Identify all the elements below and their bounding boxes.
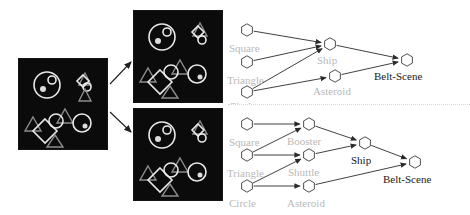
graph-node-b-booster[interactable] — [304, 118, 315, 130]
bottom-parse-graph: SquareTriangleCircleBoosterShuttleAstero… — [225, 107, 470, 215]
graph-divider — [228, 104, 470, 105]
graph-node-b-circle[interactable] — [242, 180, 253, 192]
graph-node-t-ship[interactable] — [325, 38, 336, 50]
bottom-parse-canvas — [134, 109, 222, 200]
graph-node-label-b-square: Square — [229, 136, 260, 148]
scene-circle-mid — [49, 114, 63, 128]
graph-edge-b-shuttle-to-b-ship — [316, 145, 356, 154]
scene-circle-right — [188, 163, 206, 181]
scene-dot-right — [198, 75, 203, 80]
input-scene-canvas — [19, 59, 107, 149]
scene-big-circle — [34, 72, 60, 98]
graph-node-label-b-circle: Circle — [229, 197, 256, 209]
graph-node-t-asteroid[interactable] — [330, 70, 341, 82]
graph-edge-b-ship-to-b-belt — [371, 145, 406, 158]
scene-dot-right — [198, 173, 203, 178]
top-parse-panel — [133, 10, 223, 103]
graph-node-t-belt[interactable] — [402, 54, 413, 66]
top-graph-nodes: SquareTriangleCircleShipAsteroidBelt-Sce… — [227, 24, 422, 104]
scene-triangle-bottom — [162, 184, 178, 196]
graph-node-label-t-square: Square — [229, 42, 260, 54]
graph-node-label-b-booster: Booster — [287, 135, 322, 147]
scene-inner-circle — [163, 28, 171, 36]
graph-node-t-square[interactable] — [242, 24, 253, 36]
graph-node-b-triangle[interactable] — [242, 149, 253, 161]
scene-inner-circle — [48, 76, 56, 84]
scene-inner-dot — [155, 136, 161, 142]
scene-triangle-mid — [172, 158, 188, 172]
graph-node-label-b-asteroid: Asteroid — [287, 197, 325, 209]
scene-triangle-left — [140, 68, 156, 82]
scene-circle-mid — [164, 163, 178, 177]
graph-edge-t-square-to-t-ship — [254, 31, 321, 42]
graph-edge-t-ship-to-t-belt — [337, 45, 398, 58]
scene-inner-circle — [163, 126, 171, 134]
graph-node-b-asteroid[interactable] — [304, 180, 315, 192]
top-parse-canvas — [134, 11, 222, 102]
graph-node-label-b-belt: Belt-Scene — [383, 173, 431, 185]
graph-node-label-b-ship: Ship — [351, 154, 372, 166]
graph-node-label-t-asteroid: Asteroid — [313, 85, 351, 97]
graph-node-b-belt[interactable] — [410, 156, 421, 168]
scene-inner-dot — [40, 86, 46, 92]
scene-circle-topright — [198, 36, 206, 44]
input-scene-panel — [18, 58, 108, 150]
scene-big-circle — [149, 24, 175, 50]
scene-triangle-mid — [172, 60, 188, 74]
graph-edge-b-booster-to-b-ship — [315, 126, 356, 140]
top-parse-graph: SquareTriangleCircleShipAsteroidBelt-Sce… — [225, 0, 470, 104]
scene-triangle-bottom — [47, 135, 63, 147]
graph-node-label-b-triangle: Triangle — [227, 167, 264, 179]
graph-node-label-b-shuttle: Shuttle — [288, 166, 319, 178]
graph-node-b-square[interactable] — [242, 118, 253, 130]
scene-circle-topright — [198, 134, 206, 142]
scene-circle-right — [73, 114, 91, 132]
scene-triangle-bottom — [162, 86, 178, 98]
bottom-parse-panel — [133, 108, 223, 201]
scene-big-circle — [149, 122, 175, 148]
graph-node-b-ship[interactable] — [360, 137, 371, 149]
scene-inner-dot — [155, 38, 161, 44]
scene-dot-right — [83, 124, 88, 129]
graph-node-t-circle[interactable] — [242, 86, 253, 98]
graph-node-label-t-ship: Ship — [317, 54, 338, 66]
bottom-graph-nodes: SquareTriangleCircleBoosterShuttleAstero… — [227, 118, 431, 209]
scene-triangle-left — [25, 117, 41, 131]
graph-node-b-shuttle[interactable] — [304, 149, 315, 161]
arrow-to-top-panel — [110, 62, 131, 84]
arrow-to-bottom-panel — [110, 112, 131, 132]
scene-triangle-left — [140, 166, 156, 180]
graph-node-label-t-belt: Belt-Scene — [374, 70, 422, 82]
scene-circle-mid — [164, 65, 178, 79]
graph-node-label-t-circle: Circle — [229, 100, 256, 104]
graph-edge-t-triangle-to-t-ship — [254, 46, 321, 61]
scene-triangle-mid — [57, 109, 73, 123]
graph-node-label-t-triangle: Triangle — [227, 74, 264, 86]
figure-root: SquareTriangleCircleShipAsteroidBelt-Sce… — [0, 0, 470, 215]
graph-node-t-triangle[interactable] — [242, 56, 253, 68]
scene-circle-right — [188, 65, 206, 83]
